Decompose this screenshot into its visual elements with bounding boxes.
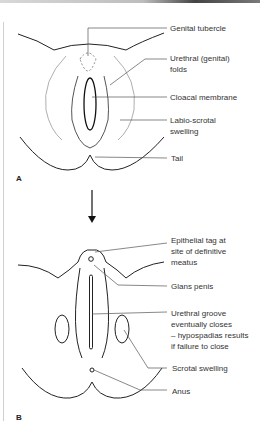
label-labio-scrotal-line2: swelling (170, 127, 198, 136)
label-anus: Anus (172, 387, 190, 396)
panel-b-leaders (92, 243, 167, 390)
panel-a-drawing (18, 33, 164, 170)
label-urethral-folds-line1: Urethral (genital) (170, 54, 230, 63)
label-epithelial-line3: meatus (171, 258, 197, 267)
label-scrotal-swelling: Scrotal swelling (172, 364, 228, 373)
panel-a-leaders (88, 28, 167, 158)
label-cloacal-membrane: Cloacal membrane (170, 93, 238, 102)
panel-a-letter: A (16, 174, 22, 183)
label-groove-line4: if failure to close (171, 342, 229, 351)
label-groove-line2: eventually closes (171, 320, 232, 329)
label-groove-line1: Urethral groove (171, 309, 227, 318)
label-epithelial-line1: Epithelial tag at (171, 236, 226, 245)
panel-b-drawing (18, 250, 164, 398)
label-epithelial-line2: site of definitive (171, 247, 227, 256)
down-arrow-icon (88, 190, 96, 223)
label-genital-tubercle: Genital tubercle (170, 24, 227, 33)
label-urethral-folds-line2: folds (170, 65, 187, 74)
panel-b-letter: B (16, 413, 22, 421)
label-tail: Tail (171, 154, 183, 163)
embryology-diagram: Genital tubercle Urethral (genital) fold… (0, 0, 260, 421)
label-groove-line3: – hypospadias results (171, 331, 248, 340)
label-glans-penis: Glans penis (171, 282, 213, 291)
label-labio-scrotal-line1: Labio-scrotal (170, 116, 216, 125)
